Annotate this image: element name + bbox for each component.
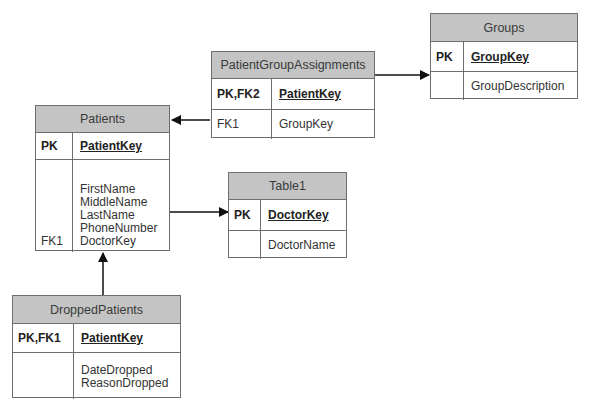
attributes-row: GroupDescription [431, 72, 577, 100]
field: ReasonDropped [81, 377, 168, 390]
key-label: PK,FK1 [13, 324, 74, 352]
entity-table1[interactable]: Table1 PK DoctorKey DoctorName [228, 172, 347, 258]
key-label: PK,FK2 [212, 79, 272, 109]
entity-patient-group-assignments[interactable]: PatientGroupAssignments PK,FK2 PatientKe… [211, 51, 375, 138]
attributes-row: FK1 GroupKey [212, 110, 374, 139]
key-label: PK [431, 42, 464, 71]
field: GroupDescription [464, 72, 564, 100]
field: GroupKey [272, 110, 333, 139]
fk-label: FK1 [41, 235, 72, 248]
field: DoctorKey [80, 235, 157, 248]
pk-field: PatientKey [272, 79, 341, 109]
entity-patients[interactable]: Patients PK PatientKey ​ ​ ​ ​ FK1 First… [35, 105, 170, 251]
entity-title: DroppedPatients [13, 296, 180, 324]
pk-field: PatientKey [73, 133, 142, 159]
fk-label: FK1 [212, 110, 272, 139]
key-label: PK [36, 133, 73, 159]
field: DoctorName [261, 231, 335, 259]
pk-field: GroupKey [464, 42, 529, 71]
key-labels [13, 353, 74, 399]
attributes-row: DateDropped ReasonDropped [13, 353, 180, 399]
pk-row: PK DoctorKey [229, 200, 346, 231]
attributes-row: DoctorName [229, 231, 346, 259]
key-label [431, 72, 464, 100]
key-label [229, 231, 261, 259]
key-labels: ​ ​ ​ ​ FK1 [36, 160, 73, 252]
pk-row: PK,FK1 PatientKey [13, 324, 180, 353]
pk-row: PK,FK2 PatientKey [212, 79, 374, 110]
field-list: FirstName MiddleName LastName PhoneNumbe… [73, 160, 157, 252]
pk-field: DoctorKey [261, 200, 329, 230]
entity-title: Patients [36, 106, 169, 133]
pk-row: PK GroupKey [431, 42, 577, 72]
pk-row: PK PatientKey [36, 133, 169, 160]
entity-dropped-patients[interactable]: DroppedPatients PK,FK1 PatientKey DateDr… [12, 295, 181, 398]
entity-title: PatientGroupAssignments [212, 52, 374, 79]
entity-groups[interactable]: Groups PK GroupKey GroupDescription [430, 13, 578, 99]
attributes-row: ​ ​ ​ ​ FK1 FirstName MiddleName LastNam… [36, 160, 169, 252]
key-label: PK [229, 200, 261, 230]
entity-title: Table1 [229, 173, 346, 200]
field-list: DateDropped ReasonDropped [74, 353, 168, 399]
pk-field: PatientKey [74, 324, 143, 352]
entity-title: Groups [431, 14, 577, 42]
